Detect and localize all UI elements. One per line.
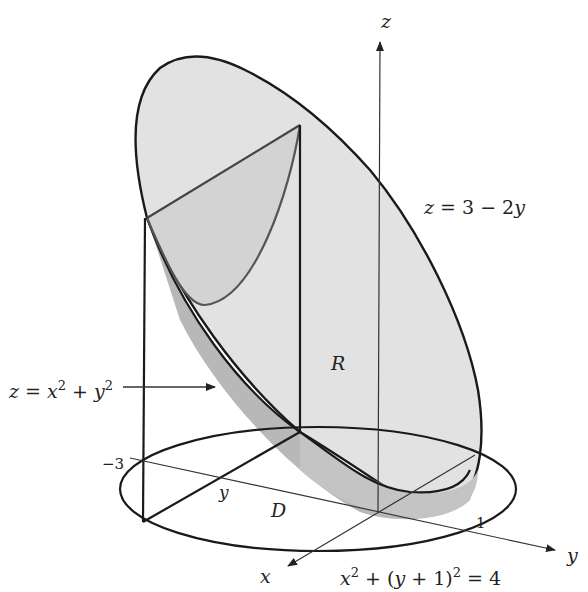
vertical-edge-left xyxy=(143,218,145,522)
disk-equation-label: x2 + (y + 1)2 = 4 xyxy=(340,565,501,589)
tick-neg3-label: −3 xyxy=(102,455,124,473)
tick-1-label: 1 xyxy=(476,514,486,532)
paraboloid-equation-label: z = x2 + y2 xyxy=(8,378,113,402)
inner-y-label: y xyxy=(218,482,229,502)
region-R-label: R xyxy=(330,352,345,374)
x-axis-label: x xyxy=(260,565,271,587)
region-D-label: D xyxy=(270,499,286,521)
y-axis-label: y xyxy=(566,544,578,566)
plane-equation-label: z = 3 − 2y xyxy=(423,196,525,218)
solid-region-diagram: z y x z = 3 − 2y z = x2 + y2 R D y −3 1 … xyxy=(0,0,588,592)
z-axis-label: z xyxy=(380,10,392,32)
